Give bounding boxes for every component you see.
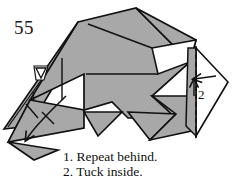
caption-block: 1. Repeat behind. 2. Tuck inside. [63, 149, 233, 179]
caption-line-2: 2. Tuck inside. [63, 164, 233, 179]
caption-line-1: 1. Repeat behind. [63, 149, 233, 164]
lower-left-fin-tip [8, 142, 58, 160]
step-label-2: 2 [198, 88, 205, 101]
middle-fin-spike [84, 112, 122, 136]
page-number: 55 [14, 18, 34, 37]
diagram-page: 55 1 2 1. Repeat behind. 2. Tuck inside. [0, 0, 236, 183]
step-label-1: 1 [30, 89, 37, 102]
